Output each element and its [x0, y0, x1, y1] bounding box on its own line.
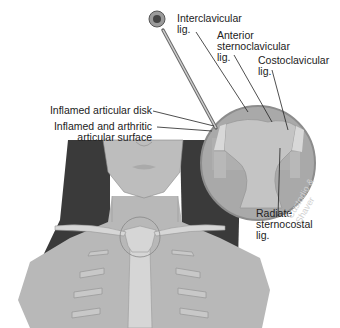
sternum-body: [128, 248, 152, 328]
label-inflamed-arthritic-surface: Inflamed and arthritic articular surface: [54, 121, 152, 143]
label-costoclavicular-ligament: Costoclavicular lig.: [258, 55, 329, 77]
label-inflamed-articular-disk: Inflamed articular disk: [50, 105, 152, 116]
